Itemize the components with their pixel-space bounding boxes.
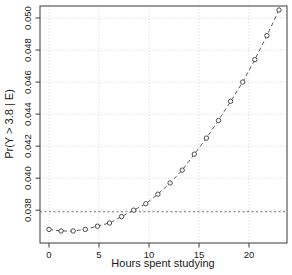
data-point <box>156 192 160 196</box>
x-tick-label: 0 <box>46 249 51 260</box>
data-point <box>95 224 99 228</box>
data-point <box>71 229 75 233</box>
data-point <box>168 181 172 185</box>
data-point <box>119 214 123 218</box>
data-point <box>228 99 232 103</box>
x-tick-label: 20 <box>244 249 255 260</box>
x-tick-label: 5 <box>96 249 101 260</box>
y-tick-label: 0.040 <box>22 166 33 190</box>
y-tick-label: 0.046 <box>22 70 33 94</box>
data-point <box>180 168 184 172</box>
plot-border <box>40 6 287 243</box>
y-tick-label: 0.050 <box>22 6 33 30</box>
y-tick-label: 0.038 <box>22 198 33 222</box>
figure: 051015200.0380.0400.0420.0440.0460.0480.… <box>0 0 292 275</box>
data-point <box>216 118 220 122</box>
y-tick-label: 0.042 <box>22 134 33 158</box>
y-axis-title: Pr(Y > 3.8 | E) <box>3 89 15 159</box>
data-point <box>132 208 136 212</box>
plot-area: 051015200.0380.0400.0420.0440.0460.0480.… <box>0 0 292 275</box>
data-point <box>265 33 269 37</box>
data-point <box>277 8 281 12</box>
data-point <box>59 229 63 233</box>
y-tick-label: 0.048 <box>22 38 33 62</box>
series-line <box>49 10 279 231</box>
data-point <box>47 227 51 231</box>
data-point <box>144 202 148 206</box>
data-point <box>204 136 208 140</box>
data-point <box>83 227 87 231</box>
data-point <box>192 152 196 156</box>
data-point <box>107 221 111 225</box>
data-point <box>253 57 257 61</box>
x-axis-title: Hours spent studying <box>111 257 214 269</box>
data-point <box>241 80 245 84</box>
y-tick-label: 0.044 <box>22 102 33 126</box>
